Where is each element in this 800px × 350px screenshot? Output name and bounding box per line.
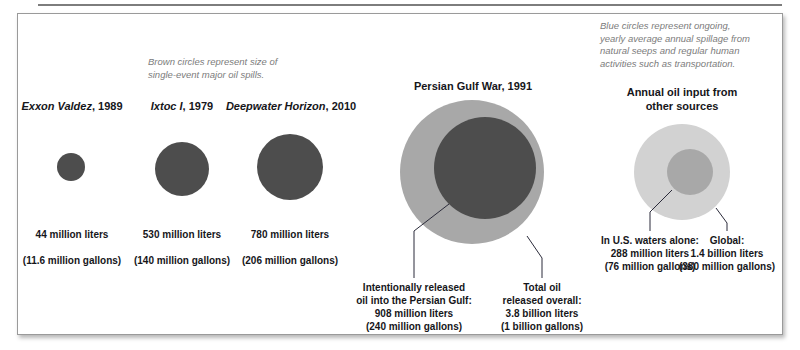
caption-deepwater-horizon-gallons: (206 million gallons) [242,255,338,266]
title-deepwater-horizon: Deepwater Horizon, 2010 [224,100,358,112]
title-ixtoc-i-year: 1979 [189,100,213,112]
title-persian-gulf-war: Persian Gulf War, 1991 [402,80,544,92]
title-exxon-valdez-year: 1989 [98,100,122,112]
legend-note-blue-circles: Blue circles represent ongoing, yearly a… [600,20,800,70]
title-persian-gulf-war-text: Persian Gulf War, 1991 [414,80,532,92]
caption-ixtoc-i: 530 million liters (140 million gallons) [126,215,238,267]
leader-line-other-global [716,208,727,231]
circle-exxon-valdez [57,153,85,181]
caption-gulf-war-intentional: Intentionally released oil into the Pers… [348,281,480,333]
title-other-sources: Annual oil input from other sources [600,85,764,113]
title-exxon-valdez: Exxon Valdez, 1989 [18,100,126,112]
caption-deepwater-horizon-liters: 780 million liters [251,229,329,240]
circle-deepwater-horizon [257,134,323,200]
circle-gulf-war-intentional [434,117,536,219]
caption-exxon-valdez: 44 million liters (11.6 million gallons) [14,215,130,267]
caption-deepwater-horizon: 780 million liters (206 million gallons) [234,215,346,267]
title-ixtoc-i-name: Ixtoc I [151,100,183,112]
leader-line-gulf-total [527,236,542,278]
legend-note-brown-circles: Brown circles represent size of single-e… [148,56,338,81]
title-exxon-valdez-name: Exxon Valdez [21,100,92,112]
title-ixtoc-i: Ixtoc I, 1979 [132,100,232,112]
caption-ixtoc-i-gallons: (140 million gallons) [134,255,230,266]
caption-exxon-valdez-liters: 44 million liters [36,229,109,240]
caption-other-sources-global: Global: 1.4 billion liters (380 million … [668,234,786,273]
caption-exxon-valdez-gallons: (11.6 million gallons) [23,255,121,266]
title-deepwater-horizon-name: Deepwater Horizon [226,100,326,112]
circle-other-sources-us [667,149,713,195]
caption-ixtoc-i-liters: 530 million liters [143,229,221,240]
title-deepwater-horizon-year: 2010 [332,100,356,112]
infographic-root: Brown circles represent size of single-e… [0,0,800,350]
circle-ixtoc-i [155,142,209,196]
caption-gulf-war-total: Total oil released overall: 3.8 billion … [489,281,595,333]
